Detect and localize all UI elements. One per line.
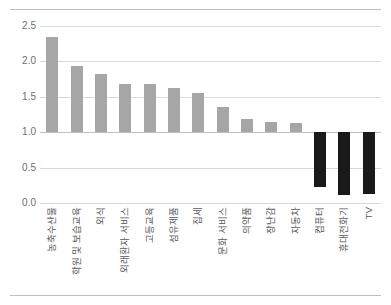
bar [95, 74, 107, 132]
x-tick-label: 컴퓨터 [315, 207, 325, 234]
bar-slot [332, 26, 356, 203]
x-tick-label: TV [364, 207, 374, 219]
bar-slot [137, 26, 161, 203]
x-tick-label: 자동차 [291, 207, 301, 234]
bar [241, 119, 253, 132]
bar-slot [64, 26, 88, 203]
bar-slot [113, 26, 137, 203]
y-tick-label: 2.5 [2, 21, 36, 31]
x-tick-label: 문화 서비스 [218, 207, 228, 255]
bar-slot [284, 26, 308, 203]
bar-slot [162, 26, 186, 203]
y-tick-label: 0.0 [2, 198, 36, 208]
x-tick-label: 섬유제품 [169, 207, 179, 243]
bar [290, 123, 302, 132]
x-tick-label: 외식 [96, 207, 106, 225]
gridline [40, 203, 381, 204]
y-tick-label: 1.5 [2, 92, 36, 102]
bar [168, 88, 180, 133]
bar-slot [308, 26, 332, 203]
bar-slot [186, 26, 210, 203]
bar [71, 66, 83, 132]
bar [363, 132, 375, 194]
bar-slot [259, 26, 283, 203]
y-tick-label: 1.0 [2, 127, 36, 137]
x-axis-category-labels: 농축수산물학원 및 보습교육외식외래환자 서비스고등교육섬유제품집세문화 서비스… [40, 205, 381, 295]
bar-series [40, 26, 381, 203]
bar [217, 107, 229, 132]
bar [314, 132, 326, 187]
bar-slot [211, 26, 235, 203]
bar [192, 93, 204, 133]
x-tick-label: 집세 [193, 207, 203, 225]
bar [46, 37, 58, 132]
plot-area: 0.00.51.01.52.02.5 [40, 26, 381, 203]
x-tick-label: 고등교육 [145, 207, 155, 243]
x-tick-label: 의약품 [242, 207, 252, 234]
bottom-rule [10, 295, 381, 296]
chart-figure: 0.00.51.01.52.02.5 농축수산물학원 및 보습교육외식외래환자 … [0, 0, 391, 305]
bar-slot [89, 26, 113, 203]
top-rule [10, 9, 381, 10]
x-tick-label: 학원 및 보습교육 [72, 207, 82, 275]
bar [119, 84, 131, 132]
x-tick-label: 장난감 [266, 207, 276, 234]
bar [265, 122, 277, 133]
x-tick-label: 외래환자 서비스 [120, 207, 130, 273]
x-tick-label: 휴대전화기 [339, 207, 349, 252]
bar-slot [235, 26, 259, 203]
bar [144, 84, 156, 132]
bar-slot [357, 26, 381, 203]
x-tick-label: 농축수산물 [47, 207, 57, 252]
y-tick-label: 2.0 [2, 56, 36, 66]
bar-slot [40, 26, 64, 203]
y-tick-label: 0.5 [2, 163, 36, 173]
bar [338, 132, 350, 195]
